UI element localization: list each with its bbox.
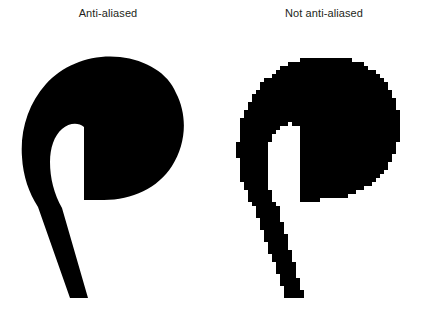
glyph-stage-not-anti-aliased xyxy=(216,30,432,312)
antialiasing-comparison-figure: Anti-aliased Not anti-aliased xyxy=(0,0,432,312)
panel-anti-aliased: Anti-aliased xyxy=(0,0,216,312)
glyph-stage-anti-aliased xyxy=(0,30,216,312)
glyph-path-anti-aliased xyxy=(22,56,184,298)
caption-anti-aliased: Anti-aliased xyxy=(0,7,216,20)
caption-not-anti-aliased: Not anti-aliased xyxy=(216,7,432,20)
panel-not-anti-aliased: Not anti-aliased xyxy=(216,0,432,312)
glyph-path-not-anti-aliased xyxy=(236,58,400,298)
glyph-blocks-not-anti-aliased xyxy=(236,58,400,298)
glyph-not-anti-aliased xyxy=(216,30,432,312)
glyph-anti-aliased xyxy=(0,30,216,312)
